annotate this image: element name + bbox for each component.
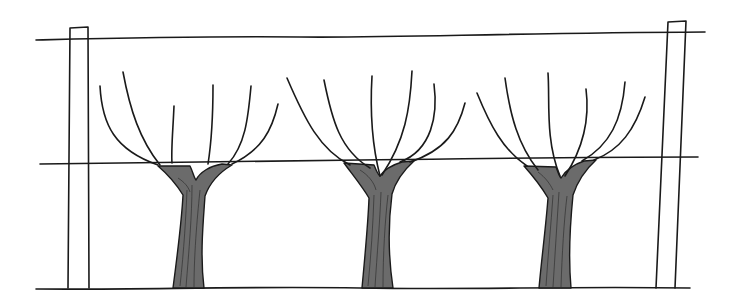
trellis-drawing — [0, 0, 737, 299]
vine-middle — [287, 71, 465, 288]
vine-cane — [477, 93, 527, 166]
vine-cane — [208, 85, 213, 164]
vine-trunk — [524, 160, 596, 288]
vine-cane — [594, 97, 645, 160]
vine-left — [100, 72, 278, 288]
vine-trunk — [158, 164, 232, 288]
vine-cane — [287, 78, 350, 165]
left-post — [68, 27, 89, 288]
vine-cane — [505, 78, 538, 170]
vine-cane — [324, 80, 370, 168]
vine-cane — [228, 86, 251, 164]
grapevines — [100, 71, 645, 288]
vine-right — [477, 73, 645, 288]
right-post — [656, 21, 686, 288]
vine-cane — [582, 82, 625, 161]
vine-cane — [172, 106, 174, 163]
vine-cane — [410, 103, 465, 162]
vine-cane — [548, 73, 560, 176]
vine-cane — [232, 104, 278, 164]
vine-trellis-illustration: Vines trained on a trellis — [0, 0, 737, 299]
vine-cane — [123, 72, 160, 165]
vine-cane — [371, 76, 380, 176]
top-wire — [36, 32, 705, 40]
